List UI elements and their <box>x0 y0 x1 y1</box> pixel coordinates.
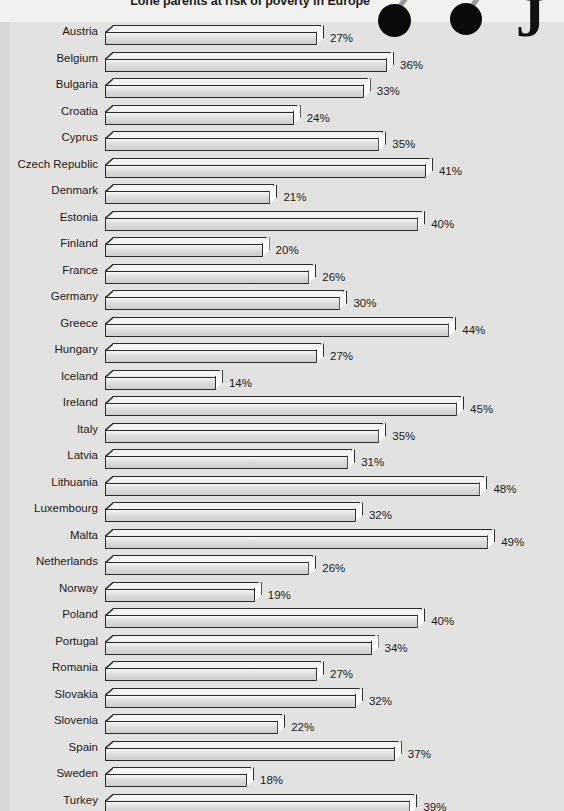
category-label-austria: Austria <box>0 25 98 37</box>
bar-row: Lithuania48% <box>0 473 564 500</box>
bar-top-face <box>109 502 360 509</box>
category-label-iceland: Iceland <box>0 370 98 382</box>
bar-row: Netherlands26% <box>0 552 564 579</box>
bar-front-face <box>105 509 356 522</box>
bar-front-face <box>105 403 457 416</box>
bar-top-face <box>109 608 422 615</box>
bar-row: Germany30% <box>0 287 564 314</box>
bar-top-face <box>109 794 414 801</box>
bar-top-face <box>109 635 376 642</box>
bar-row: Austria27% <box>0 22 564 49</box>
bar-front-face <box>105 430 379 443</box>
bar-norway <box>105 589 255 602</box>
bar-rows-container: Austria27%Belgium36%Bulgaria33%Croatia24… <box>0 22 564 811</box>
bar-front-face <box>105 297 340 310</box>
value-label-latvia: 31% <box>361 456 384 468</box>
bar-slovakia <box>105 695 356 708</box>
bar-row: Iceland14% <box>0 367 564 394</box>
bar-row: Greece44% <box>0 314 564 341</box>
bar-front-face <box>105 271 309 284</box>
bar-row: Malta49% <box>0 526 564 553</box>
bar-top-face <box>109 582 259 589</box>
bar-hungary <box>105 350 317 363</box>
bar-front-face <box>105 748 395 761</box>
category-label-slovenia: Slovenia <box>0 714 98 726</box>
bar-front-face <box>105 483 480 496</box>
value-label-sweden: 18% <box>260 774 283 786</box>
bar-row: France26% <box>0 261 564 288</box>
value-label-belgium: 36% <box>400 59 423 71</box>
bar-front-face <box>105 377 216 390</box>
value-label-slovenia: 22% <box>291 721 314 733</box>
bar-belgium <box>105 59 387 72</box>
bar-croatia <box>105 112 294 125</box>
value-label-ireland: 45% <box>470 403 493 415</box>
bar-portugal <box>105 642 372 655</box>
bar-top-face <box>109 370 220 377</box>
category-label-greece: Greece <box>0 317 98 329</box>
bar-denmark <box>105 191 270 204</box>
value-label-malta: 49% <box>501 536 524 548</box>
bar-front-face <box>105 85 364 98</box>
category-label-cyprus: Cyprus <box>0 131 98 143</box>
category-label-hungary: Hungary <box>0 343 98 355</box>
bar-row: Estonia40% <box>0 208 564 235</box>
bar-france <box>105 271 309 284</box>
bar-poland <box>105 615 418 628</box>
category-label-belgium: Belgium <box>0 52 98 64</box>
value-label-turkey: 39% <box>423 801 446 811</box>
bar-front-face <box>105 615 418 628</box>
bar-row: Hungary27% <box>0 340 564 367</box>
bar-top-face <box>109 449 352 456</box>
bar-top-face <box>109 767 251 774</box>
bar-row: Latvia31% <box>0 446 564 473</box>
bar-greece <box>105 324 449 337</box>
bar-malta <box>105 536 488 549</box>
chart-title: Lone parents at risk of poverty in Europ… <box>0 0 500 9</box>
bar-top-face <box>109 476 484 483</box>
value-label-bulgaria: 33% <box>377 85 400 97</box>
category-label-malta: Malta <box>0 529 98 541</box>
value-label-netherlands: 26% <box>322 562 345 574</box>
bar-front-face <box>105 562 309 575</box>
bar-top-face <box>109 688 360 695</box>
bar-top-face <box>109 741 399 748</box>
bar-front-face <box>105 774 247 787</box>
category-label-czech-republic: Czech Republic <box>0 158 98 170</box>
bar-top-face <box>109 264 313 271</box>
bar-front-face <box>105 138 379 151</box>
value-label-estonia: 40% <box>431 218 454 230</box>
value-label-greece: 44% <box>462 324 485 336</box>
value-label-italy: 35% <box>392 430 415 442</box>
category-label-estonia: Estonia <box>0 211 98 223</box>
bar-row: Croatia24% <box>0 102 564 129</box>
bar-front-face <box>105 589 255 602</box>
bar-row: Poland40% <box>0 605 564 632</box>
category-label-turkey: Turkey <box>0 794 98 806</box>
bar-bulgaria <box>105 85 364 98</box>
bar-row: Turkey39% <box>0 791 564 811</box>
bar-front-face <box>105 721 278 734</box>
value-label-portugal: 34% <box>385 642 408 654</box>
bar-top-face <box>109 184 274 191</box>
bar-top-face <box>109 343 321 350</box>
value-label-slovakia: 32% <box>369 695 392 707</box>
category-label-france: France <box>0 264 98 276</box>
category-label-ireland: Ireland <box>0 396 98 408</box>
bar-top-face <box>109 78 368 85</box>
bar-front-face <box>105 642 372 655</box>
bar-front-face <box>105 668 317 681</box>
value-label-poland: 40% <box>431 615 454 627</box>
bar-front-face <box>105 456 348 469</box>
category-label-croatia: Croatia <box>0 105 98 117</box>
bar-cyprus <box>105 138 379 151</box>
category-label-finland: Finland <box>0 237 98 249</box>
value-label-finland: 20% <box>276 244 299 256</box>
bar-top-face <box>109 158 430 165</box>
category-label-poland: Poland <box>0 608 98 620</box>
bar-row: Slovenia22% <box>0 711 564 738</box>
value-label-luxembourg: 32% <box>369 509 392 521</box>
bar-front-face <box>105 244 263 257</box>
bar-top-face <box>109 290 344 297</box>
bar-row: Cyprus35% <box>0 128 564 155</box>
